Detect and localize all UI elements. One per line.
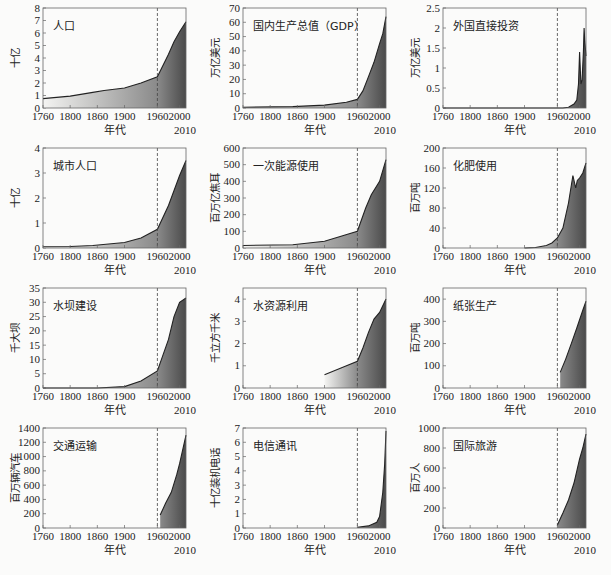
- y-tick-label: 3: [235, 479, 241, 491]
- x-tick-label: 1800: [459, 390, 482, 402]
- x-end-label: 2010: [174, 264, 197, 276]
- x-tick-label: 1760: [432, 530, 455, 542]
- x-tick-label: 1800: [259, 390, 282, 402]
- x-tick-label: 1760: [232, 110, 255, 122]
- y-tick-label: 1: [235, 507, 241, 519]
- chart-svg: 04080120160200 176018001860190019602000 …: [400, 140, 600, 280]
- data-area: [325, 299, 387, 388]
- x-end-label: 2010: [574, 264, 597, 276]
- y-tick-label: 600: [24, 479, 41, 491]
- y-tick-label: 40: [429, 222, 441, 234]
- x-end-label: 2010: [174, 124, 197, 136]
- y-axis-label: 十亿: [9, 48, 21, 68]
- y-axis-ticks: 01234: [35, 142, 47, 254]
- x-tick-label: 1760: [32, 250, 55, 262]
- x-tick-label: 1800: [59, 250, 82, 262]
- chart-panel-12: 02004006008001000 1760180018601900196020…: [400, 420, 600, 560]
- x-tick-label: 1800: [59, 390, 82, 402]
- x-tick-label: 1900: [514, 110, 537, 122]
- y-tick-label: 5: [35, 39, 41, 51]
- y-axis-label: 千立方千米: [209, 312, 221, 363]
- y-tick-label: 4: [35, 142, 41, 154]
- x-tick-label: 1800: [259, 110, 282, 122]
- chart-title: 水坝建设: [53, 299, 97, 313]
- y-tick-label: 200: [224, 208, 241, 220]
- y-axis-label: 十亿装机电话: [209, 447, 221, 508]
- chart-svg: 01234 176018001860190019602000 水资源利用 千立方…: [200, 280, 400, 420]
- x-tick-label: 1860: [286, 250, 309, 262]
- x-tick-label: 1860: [86, 530, 109, 542]
- y-tick-label: 600: [424, 462, 441, 474]
- data-line: [443, 28, 586, 108]
- chart-title: 交通运输: [53, 439, 97, 453]
- chart-panel-7: 05101520253035 176018001860190019602000 …: [0, 280, 200, 420]
- y-axis-ticks: 01234: [235, 293, 247, 394]
- chart-title: 电信通讯: [253, 440, 297, 453]
- chart-title: 水资源利用: [253, 299, 308, 313]
- x-tick-label: 1760: [232, 530, 255, 542]
- x-tick-label: 1960: [546, 390, 569, 402]
- x-axis-label: 年代: [504, 543, 526, 557]
- x-tick-label: 1960: [346, 530, 369, 542]
- x-tick-label: 1800: [459, 530, 482, 542]
- y-axis-label: 千大坝: [9, 323, 21, 353]
- x-tick-label: 1800: [459, 110, 482, 122]
- chart-panel-11: 01234567 176018001860190019602000 电信通讯 十…: [200, 420, 400, 560]
- x-tick-label: 1760: [432, 390, 455, 402]
- x-tick-label: 1800: [259, 250, 282, 262]
- x-tick-label: 1900: [114, 530, 137, 542]
- x-tick-label: 1900: [314, 250, 337, 262]
- x-end-label: 2010: [574, 404, 597, 416]
- chart-panel-1: 012345678 176018001860190019602000 人口 十亿…: [0, 0, 200, 140]
- y-tick-label: 3: [35, 167, 41, 179]
- y-tick-label: 2: [435, 22, 441, 34]
- x-tick-label: 1900: [114, 110, 137, 122]
- x-tick-label: 1800: [59, 110, 82, 122]
- y-axis-ticks: 012345678: [35, 2, 47, 114]
- y-tick-label: 30: [29, 296, 41, 308]
- y-tick-label: 4: [235, 293, 241, 305]
- y-tick-label: 50: [229, 30, 241, 42]
- x-tick-label: 2000: [569, 390, 592, 402]
- x-axis-label: 年代: [104, 263, 126, 277]
- y-axis-ticks: 010203040506070: [229, 2, 246, 114]
- y-axis-label: 百万吨: [409, 182, 421, 213]
- x-end-label: 2010: [174, 404, 197, 416]
- chart-panel-10: 0200400600800100012001400 17601800186019…: [0, 420, 200, 560]
- chart-title: 外国直接投资: [453, 19, 519, 33]
- y-tick-label: 7: [235, 422, 241, 434]
- y-tick-label: 1: [35, 217, 41, 229]
- x-tick-label: 1760: [32, 110, 55, 122]
- x-end-label: 2010: [174, 544, 197, 556]
- x-tick-label: 1860: [86, 390, 109, 402]
- y-tick-label: 7: [35, 14, 41, 26]
- chart-svg: 01234 176018001860190019602000 城市人口 十亿 年…: [0, 140, 200, 280]
- x-axis-label: 年代: [104, 543, 126, 557]
- y-axis-label: 万亿美元: [209, 37, 221, 78]
- y-axis-label: 十亿: [9, 188, 21, 208]
- y-tick-label: 1.5: [426, 42, 440, 54]
- y-tick-label: 1200: [18, 436, 41, 448]
- x-axis-label: 年代: [504, 123, 526, 137]
- y-tick-label: 80: [429, 202, 441, 214]
- x-tick-label: 1860: [286, 390, 309, 402]
- chart-title: 一次能源使用: [253, 159, 319, 173]
- x-end-label: 2010: [374, 544, 397, 556]
- y-tick-label: 8: [35, 2, 41, 14]
- y-tick-label: 2: [235, 337, 241, 349]
- x-axis-label: 年代: [504, 403, 526, 417]
- y-tick-label: 70: [229, 2, 241, 14]
- x-tick-label: 1800: [459, 250, 482, 262]
- y-tick-label: 300: [424, 315, 441, 327]
- chart-svg: 0100200300400 176018001860190019602000 纸…: [400, 280, 600, 420]
- chart-svg: 01234567 176018001860190019602000 电信通讯 十…: [200, 420, 400, 560]
- x-tick-label: 2000: [169, 110, 192, 122]
- x-tick-label: 2000: [369, 250, 392, 262]
- chart-svg: 0200400600800100012001400 17601800186019…: [0, 420, 200, 560]
- x-tick-label: 1900: [514, 530, 537, 542]
- x-tick-label: 2000: [369, 390, 392, 402]
- chart-svg: 0100200300400500600 17601800186019001960…: [200, 140, 400, 280]
- y-tick-label: 600: [224, 142, 241, 154]
- y-tick-label: 40: [229, 44, 241, 56]
- x-axis-label: 年代: [104, 403, 126, 417]
